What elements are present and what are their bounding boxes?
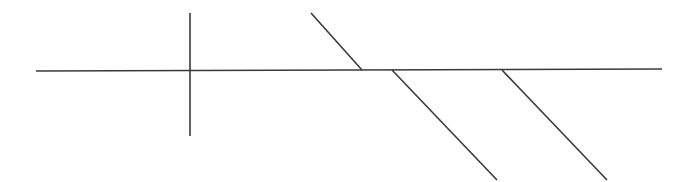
upper-diagonal-line bbox=[311, 13, 362, 70]
lower-diagonal-line-2 bbox=[502, 70, 607, 180]
line-diagram bbox=[0, 0, 694, 182]
main-horizontal-line bbox=[36, 69, 662, 71]
diagram-svg bbox=[0, 0, 694, 182]
lower-diagonal-line-1 bbox=[392, 70, 497, 180]
